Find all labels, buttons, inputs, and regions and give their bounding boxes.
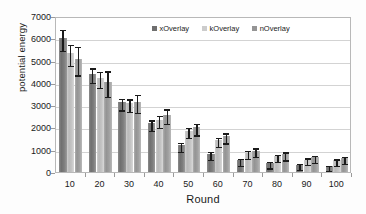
bar-kOverlay-20 [97,78,104,172]
error-cap-lower [119,110,125,111]
error-cap-lower [149,131,155,132]
bar-group [207,18,230,172]
error-cap-upper [90,68,96,69]
x-tick-label: 80 [272,179,282,189]
error-cap-upper [75,47,81,48]
error-cap-upper [326,166,332,167]
x-axis-title: Round [55,193,351,205]
error-cap-upper [253,148,259,149]
x-tick-mark [233,173,234,177]
error-cap-upper [297,164,303,165]
error-cap-upper [97,72,103,73]
x-tick-label: 20 [94,179,104,189]
y-tick-mark [51,151,55,152]
error-cap-lower [90,83,96,84]
x-axis-tick-labels: 102030405060708090100 [55,179,351,193]
error-cap-upper [194,124,200,125]
legend-entry-nOverlay[interactable]: nOverlay [252,24,290,33]
error-cap-lower [157,128,163,129]
x-tick-mark [144,173,145,177]
x-tick-label: 10 [65,179,75,189]
legend-swatch-icon [152,26,157,31]
bar-chart: potential energy 01000200030004000500060… [0,0,366,214]
legend-label: nOverlay [260,24,290,33]
error-cap-upper [157,116,163,117]
error-bar-nOverlay-60 [226,133,227,143]
error-cap-lower [305,165,311,166]
error-cap-lower [253,157,259,158]
x-tick-mark [321,173,322,177]
error-cap-upper [105,71,111,72]
bar-kOverlay-10 [67,53,74,172]
legend-label: kOverlay [210,24,240,33]
error-cap-lower [312,163,318,164]
error-cap-lower [342,164,348,165]
x-tick-mark [292,173,293,177]
error-cap-lower [135,113,141,114]
legend-entry-kOverlay[interactable]: kOverlay [202,24,239,33]
bar-group [118,18,141,172]
legend-swatch-icon [252,26,257,31]
error-bar-xOverlay-20 [92,68,93,83]
error-cap-upper [283,152,289,153]
error-cap-lower [283,160,289,161]
bars-layer [56,18,350,172]
error-bar-kOverlay-10 [70,45,71,66]
error-cap-upper [216,138,222,139]
error-cap-lower [127,112,133,113]
chart-legend: xOverlaykOverlaynOverlay [152,24,290,33]
bar-group [326,18,349,172]
y-tick-label: 6000 [18,34,51,44]
error-cap-upper [60,30,66,31]
error-cap-upper [186,128,192,129]
y-tick-mark [51,106,55,107]
x-tick-mark [262,173,263,177]
y-tick-label: 7000 [18,12,51,22]
error-cap-upper [275,155,281,156]
bar-group [59,18,82,172]
error-cap-upper [245,151,251,152]
error-cap-lower [275,162,281,163]
error-cap-lower [334,166,340,167]
bar-group [266,18,289,172]
y-tick-mark [51,128,55,129]
x-tick-label: 40 [154,179,164,189]
x-tick-label: 90 [302,179,312,189]
error-cap-upper [164,109,170,110]
y-tick-label: 4000 [18,79,51,89]
error-bar-nOverlay-10 [78,47,79,76]
error-cap-lower [186,138,192,139]
x-tick-label: 30 [124,179,134,189]
x-tick-label: 70 [242,179,252,189]
y-tick-label: 2000 [18,123,51,133]
error-cap-upper [267,162,273,163]
error-cap-upper [305,158,311,159]
x-tick-label: 100 [329,179,344,189]
error-cap-upper [208,152,214,153]
error-cap-upper [135,95,141,96]
error-cap-lower [267,168,273,169]
error-cap-upper [127,99,133,100]
y-tick-label: 1000 [18,146,51,156]
y-tick-mark [51,173,55,174]
error-cap-lower [164,124,170,125]
error-cap-upper [312,156,318,157]
error-bar-nOverlay-30 [137,95,138,113]
error-bar-xOverlay-30 [122,99,123,111]
legend-entry-xOverlay[interactable]: xOverlay [152,24,189,33]
error-cap-lower [216,147,222,148]
error-cap-lower [75,75,81,76]
bar-group [148,18,171,172]
error-bar-nOverlay-50 [196,124,197,136]
y-tick-label: 3000 [18,101,51,111]
error-cap-lower [68,66,74,67]
x-tick-mark [203,173,204,177]
error-bar-nOverlay-40 [167,109,168,123]
error-cap-upper [178,143,184,144]
error-cap-upper [238,159,244,160]
error-cap-upper [149,120,155,121]
plot-area [55,17,351,173]
bar-kOverlay-30 [126,103,133,172]
legend-swatch-icon [202,26,207,31]
error-bar-kOverlay-30 [129,99,130,111]
